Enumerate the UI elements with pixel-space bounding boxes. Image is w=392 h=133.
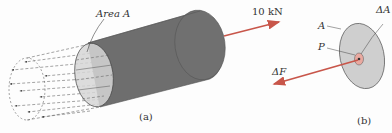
caption-a: (a): [139, 112, 153, 122]
area-a-label: Area A: [96, 9, 130, 19]
label-A: A: [318, 21, 325, 31]
label-delta-F: ΔF: [272, 67, 286, 77]
force-arrow-10kN: [224, 22, 279, 36]
stress-diagram: Area A 10 kN (a) A ΔA P ΔF (b): [0, 0, 392, 133]
area-disk: [327, 19, 390, 93]
diagram-graphics: [0, 0, 392, 133]
caption-b: (b): [357, 116, 371, 126]
point-P: [358, 58, 361, 61]
label-delta-A: ΔA: [376, 5, 390, 15]
label-P: P: [318, 42, 325, 52]
force-label-10kN: 10 kN: [252, 7, 283, 17]
